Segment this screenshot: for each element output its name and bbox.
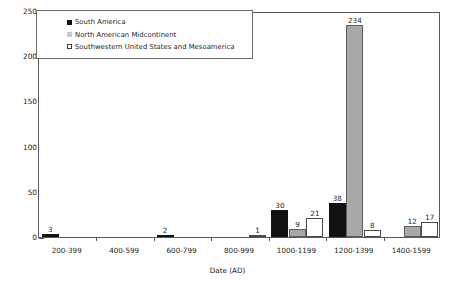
legend-swatch-icon xyxy=(67,20,72,25)
x-axis-tick-mark xyxy=(154,237,155,241)
x-axis-tick-label: 1200-1399 xyxy=(334,246,373,255)
x-axis-tick-label: 400-599 xyxy=(109,246,139,255)
bar-1400-1599-series-1: 12 xyxy=(404,226,421,237)
y-axis-tick-label: 250 xyxy=(23,7,37,16)
bar-1200-1399-series-1: 234 xyxy=(346,25,363,237)
y-axis-tick-label: 50 xyxy=(28,188,37,197)
bar-value-label: 38 xyxy=(333,194,342,203)
x-axis-tick-mark xyxy=(96,237,97,241)
x-axis-tick-label: 1400-1599 xyxy=(392,246,431,255)
legend-label: South America xyxy=(75,18,126,26)
y-axis-tick-label: 100 xyxy=(23,143,37,152)
chart-legend: South AmericaNorth American Midcontinent… xyxy=(36,10,253,59)
legend-swatch-icon xyxy=(67,44,72,49)
legend-item-0: South America xyxy=(37,16,252,28)
bar-1200-1399-series-2: 8 xyxy=(364,230,381,237)
bar-value-label: 1 xyxy=(255,226,260,235)
legend-item-2: Southwestern United States and Mesoameri… xyxy=(37,41,252,53)
y-axis-tick-label: 0 xyxy=(32,233,37,242)
bar-value-label: 2 xyxy=(163,226,168,235)
bar-1400-1599-series-2: 17 xyxy=(421,222,438,237)
x-axis-tick-label: 200-399 xyxy=(52,246,82,255)
bar-1000-1199-series-0: 30 xyxy=(271,210,288,237)
bar-1000-1199-series-2: 21 xyxy=(306,218,323,237)
bar-600-799-series-0: 2 xyxy=(157,235,174,237)
bar-value-label: 21 xyxy=(310,209,319,218)
x-axis-tick-mark xyxy=(326,237,327,241)
y-axis-tick-mark xyxy=(39,238,44,239)
bar-value-label: 234 xyxy=(348,16,362,25)
bar-value-label: 9 xyxy=(295,220,300,229)
bar-value-label: 30 xyxy=(275,201,284,210)
x-axis-title: Date (AD) xyxy=(0,266,455,275)
x-axis-tick-label: 1000-1199 xyxy=(277,246,316,255)
bar-200-399-series-0: 3 xyxy=(42,234,59,237)
bar-value-label: 8 xyxy=(370,221,375,230)
bar-value-label: 3 xyxy=(48,225,53,234)
bar-value-label: 17 xyxy=(425,213,434,222)
legend-label: North American Midcontinent xyxy=(75,31,176,39)
legend-label: Southwestern United States and Mesoameri… xyxy=(75,43,235,51)
bar-1000-1199-series-1: 9 xyxy=(289,229,306,237)
x-axis-tick-label: 800-999 xyxy=(224,246,254,255)
chart-figure: Number of Diagnosed Cases 05010015020025… xyxy=(0,0,455,285)
x-axis-tick-mark xyxy=(269,237,270,241)
x-axis-tick-label: 600-799 xyxy=(167,246,197,255)
y-axis-tick-label: 150 xyxy=(23,97,37,106)
legend-swatch-icon xyxy=(67,32,72,37)
legend-item-1: North American Midcontinent xyxy=(37,28,252,40)
bar-value-label: 12 xyxy=(408,217,417,226)
x-axis-tick-mark xyxy=(211,237,212,241)
y-axis-tick-label: 200 xyxy=(23,52,37,61)
x-axis-tick-mark xyxy=(384,237,385,241)
bar-1200-1399-series-0: 38 xyxy=(329,203,346,237)
bar-800-999-series-2: 1 xyxy=(249,235,266,237)
